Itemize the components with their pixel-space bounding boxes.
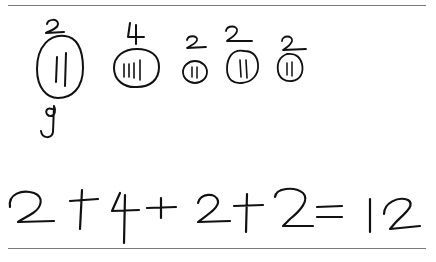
group-1-tally [65,53,66,86]
group-3-circle [183,61,207,83]
equation [10,189,420,243]
group-4-number-2 [226,27,252,42]
group-1-tally [56,57,57,82]
equation-digit-2 [275,189,313,226]
group-5 [278,37,306,82]
equation-equals [317,206,342,217]
group-3 [183,36,207,83]
equation-plus [147,198,176,218]
handwritten-work [0,0,436,262]
group-4-tally [246,60,247,78]
group-2 [114,23,159,87]
group-2-number-4 [128,23,144,44]
group-2-circle [114,49,159,87]
group-1-number-2 [46,20,64,33]
group-1-below-9 [41,106,55,137]
equation-digit-2 [10,192,54,222]
equation-digit-4 [112,193,139,243]
equation-digit-2 [384,199,420,229]
group-5-number-2 [282,37,306,51]
equation-plus [70,190,98,229]
group-4-circle [227,51,258,83]
group-1 [37,20,83,137]
group-1-circle [37,36,83,98]
group-3-number-2 [187,36,206,48]
equation-plus [234,194,263,232]
group-4 [226,27,258,84]
group-5-circle [278,54,303,81]
equation-digit-2 [198,195,230,222]
group-4-tally [240,60,241,77]
